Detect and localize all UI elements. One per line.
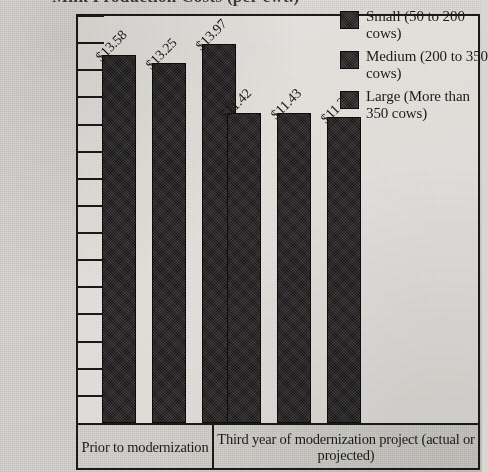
bar[interactable]	[227, 113, 261, 423]
legend-swatch-icon	[340, 51, 359, 69]
y-axis-tick	[78, 69, 104, 71]
y-axis-tick	[78, 205, 104, 207]
bar[interactable]	[277, 113, 311, 423]
legend-item-large[interactable]: Large (More than 350 cows)	[340, 88, 488, 122]
legend-item-medium[interactable]: Medium (200 to 350 cows)	[340, 48, 488, 82]
y-axis-tick	[78, 124, 104, 126]
legend-item-small[interactable]: Small (50 to 200 cows)	[340, 8, 488, 42]
y-axis-tick	[78, 96, 104, 98]
y-axis-tick	[78, 178, 104, 180]
category-label-prior: Prior to modernization	[78, 425, 214, 468]
y-axis-tick	[78, 395, 104, 397]
y-axis-tick	[78, 259, 104, 261]
y-axis-tick	[78, 42, 104, 44]
y-axis-tick	[78, 368, 104, 370]
y-axis-tick	[78, 341, 104, 343]
legend-swatch-icon	[340, 11, 359, 29]
category-axis: Prior to modernization Third year of mod…	[76, 425, 480, 470]
category-label-third-year: Third year of modernization project (act…	[214, 425, 478, 468]
y-axis-tick	[78, 15, 104, 17]
legend-swatch-icon	[340, 91, 359, 109]
legend-label: Medium (200 to 350 cows)	[366, 48, 488, 82]
bar[interactable]	[102, 55, 136, 423]
y-axis-tick	[78, 313, 104, 315]
y-axis-tick	[78, 232, 104, 234]
y-axis-tick	[78, 286, 104, 288]
legend-label: Small (50 to 200 cows)	[366, 8, 488, 42]
legend: Small (50 to 200 cows) Medium (200 to 35…	[340, 8, 488, 128]
bar[interactable]	[327, 117, 361, 423]
legend-label: Large (More than 350 cows)	[366, 88, 488, 122]
bar[interactable]	[152, 63, 186, 423]
chart-title: Milk Production Costs (per cwt.)	[52, 0, 452, 7]
y-axis-tick	[78, 151, 104, 153]
